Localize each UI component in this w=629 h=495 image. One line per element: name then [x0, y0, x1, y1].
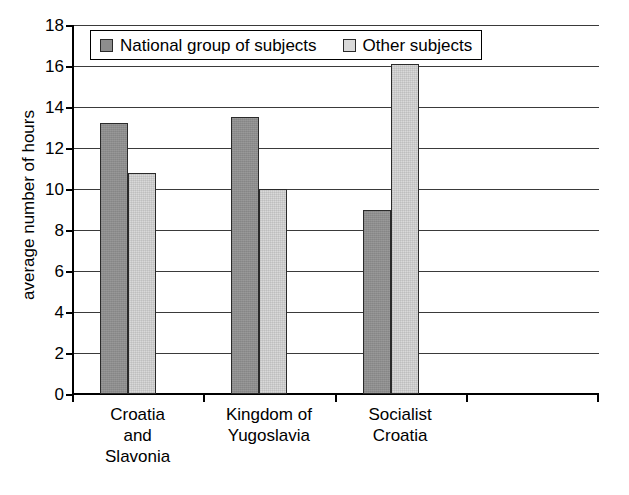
y-axis-tick-mark	[66, 353, 72, 355]
y-axis-tick-label: 12	[32, 140, 64, 157]
y-axis-tick-label: 16	[32, 58, 64, 75]
y-axis-tick-mark	[66, 271, 72, 273]
bar	[100, 123, 128, 394]
legend-label: Other subjects	[363, 37, 473, 54]
y-axis-tick-label: 2	[32, 345, 64, 362]
y-axis-tick-mark	[66, 148, 72, 150]
y-axis-tick-mark	[66, 66, 72, 68]
y-axis-tick-mark	[66, 312, 72, 314]
y-axis-tick-label: 14	[32, 99, 64, 116]
bar-chart: average number of hours 181614121086420 …	[0, 0, 629, 495]
y-axis-tick-mark	[66, 189, 72, 191]
y-axis-tick-mark	[66, 230, 72, 232]
bar	[128, 173, 156, 394]
y-axis-tick-mark	[66, 107, 72, 109]
x-axis-tick-mark	[335, 393, 337, 402]
legend-item: Other subjects	[343, 37, 473, 54]
legend-item: National group of subjects	[100, 37, 317, 54]
bar	[231, 117, 259, 394]
y-axis-tick-mark	[66, 25, 72, 27]
bar	[363, 210, 391, 395]
y-axis-tick-label: 8	[32, 222, 64, 239]
bar	[259, 189, 287, 394]
y-axis-tick-label: 6	[32, 263, 64, 280]
chart-legend: National group of subjectsOther subjects	[90, 30, 482, 60]
y-axis-tick-label: 18	[32, 17, 64, 34]
y-axis-tick-label: 4	[32, 304, 64, 321]
legend-swatch-icon	[343, 39, 356, 52]
x-axis-tick-mark	[203, 393, 205, 402]
y-axis-tick-labels: 181614121086420	[32, 25, 64, 394]
x-axis-tick-mark	[597, 393, 599, 402]
y-axis-tick-label: 10	[32, 181, 64, 198]
x-axis-tick-mark	[72, 393, 74, 402]
legend-label: National group of subjects	[120, 37, 317, 54]
bar	[391, 64, 419, 394]
x-axis-tick-mark	[466, 393, 468, 402]
x-axis-category-label: Socialist Croatia	[315, 404, 486, 446]
y-axis-tick-label: 0	[32, 386, 64, 403]
bars-layer	[72, 25, 597, 394]
legend-swatch-icon	[100, 39, 113, 52]
